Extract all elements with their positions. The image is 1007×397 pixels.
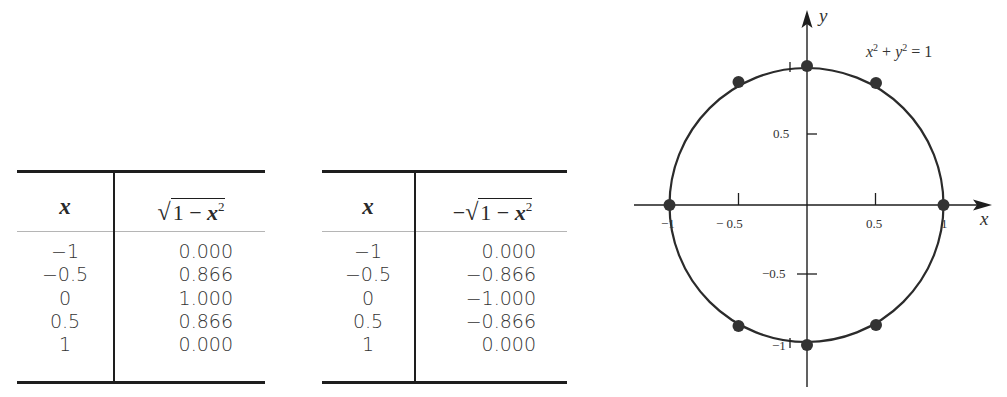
- point-05-pos0866: [870, 77, 882, 89]
- x-cell: 0.5: [322, 310, 414, 333]
- x-tick-label: −1: [661, 216, 675, 232]
- circle-equation-label: x2 + y2 = 1: [866, 42, 932, 61]
- table-bottom-rule: [322, 381, 567, 384]
- y-tick-label: 0.5: [773, 126, 789, 142]
- table-header-rule: [322, 231, 567, 232]
- graph-canvas: [620, 0, 1007, 397]
- radical-sign-icon: √: [157, 199, 170, 225]
- x-cell: 0: [322, 287, 414, 310]
- y-cell: −1.000: [418, 287, 536, 310]
- x-values-column: −1 −0.5 0 0.5 1: [17, 240, 113, 356]
- table-top-rule: [17, 170, 265, 173]
- y-cell: 0.000: [418, 240, 536, 263]
- point-1-0: [938, 199, 950, 211]
- radical-sign-icon: √: [465, 199, 478, 225]
- x-axis-label: x: [980, 208, 988, 230]
- point-neg05-pos0866: [733, 76, 745, 88]
- column-header-x: x: [17, 192, 113, 222]
- point-neg1-0: [664, 199, 676, 211]
- x-cell: −0.5: [322, 263, 414, 286]
- table-column-divider: [113, 170, 115, 383]
- x-values-column: −1 −0.5 0 0.5 1: [322, 240, 414, 356]
- table-top-rule: [322, 170, 567, 173]
- y-cell: 0.866: [117, 263, 233, 286]
- sqrt-expression: √1 − x2: [157, 200, 224, 225]
- table-bottom-rule: [17, 381, 265, 384]
- table-column-divider: [414, 170, 416, 383]
- point-0-neg1: [801, 339, 813, 351]
- y-tick-label: −0.5: [762, 266, 786, 282]
- y-cell: 1.000: [117, 287, 233, 310]
- x-cell: −1: [322, 240, 414, 263]
- unit-circle-graph: y x x2 + y2 = 1 −1 − 0.5 0.5 1 0.5 −0.5 …: [620, 0, 1007, 397]
- neg-sqrt-expression: −√1 − x2: [453, 200, 533, 225]
- y-cell: −0.866: [418, 263, 536, 286]
- x-cell: 0.5: [17, 310, 113, 333]
- column-header-neg-sqrt: −√1 − x2: [418, 192, 567, 222]
- y-values-column: 0.000 −0.866 −1.000 −0.866 0.000: [418, 240, 536, 356]
- column-header-x: x: [322, 192, 414, 222]
- y-cell: 0.866: [117, 310, 233, 333]
- y-cell: −0.866: [418, 310, 536, 333]
- y-axis-label: y: [819, 5, 827, 27]
- y-cell: 0.000: [117, 240, 233, 263]
- x-cell: 0: [17, 287, 113, 310]
- x-cell: −0.5: [17, 263, 113, 286]
- x-tick-label: 0.5: [866, 216, 882, 232]
- point-0-pos1: [801, 60, 813, 72]
- column-header-sqrt: √1 − x2: [117, 192, 265, 222]
- point-neg05-neg0866: [733, 320, 745, 332]
- y-cell: 0.000: [117, 333, 233, 356]
- table-header-rule: [17, 231, 265, 232]
- x-tick-label: − 0.5: [716, 216, 743, 232]
- y-cell: 0.000: [418, 333, 536, 356]
- x-tick-label: 1: [941, 216, 948, 232]
- x-cell: 1: [322, 333, 414, 356]
- y-tick-label: −1: [772, 338, 786, 354]
- y-values-column: 0.000 0.866 1.000 0.866 0.000: [117, 240, 233, 356]
- x-cell: −1: [17, 240, 113, 263]
- point-05-neg0866: [870, 319, 882, 331]
- x-cell: 1: [17, 333, 113, 356]
